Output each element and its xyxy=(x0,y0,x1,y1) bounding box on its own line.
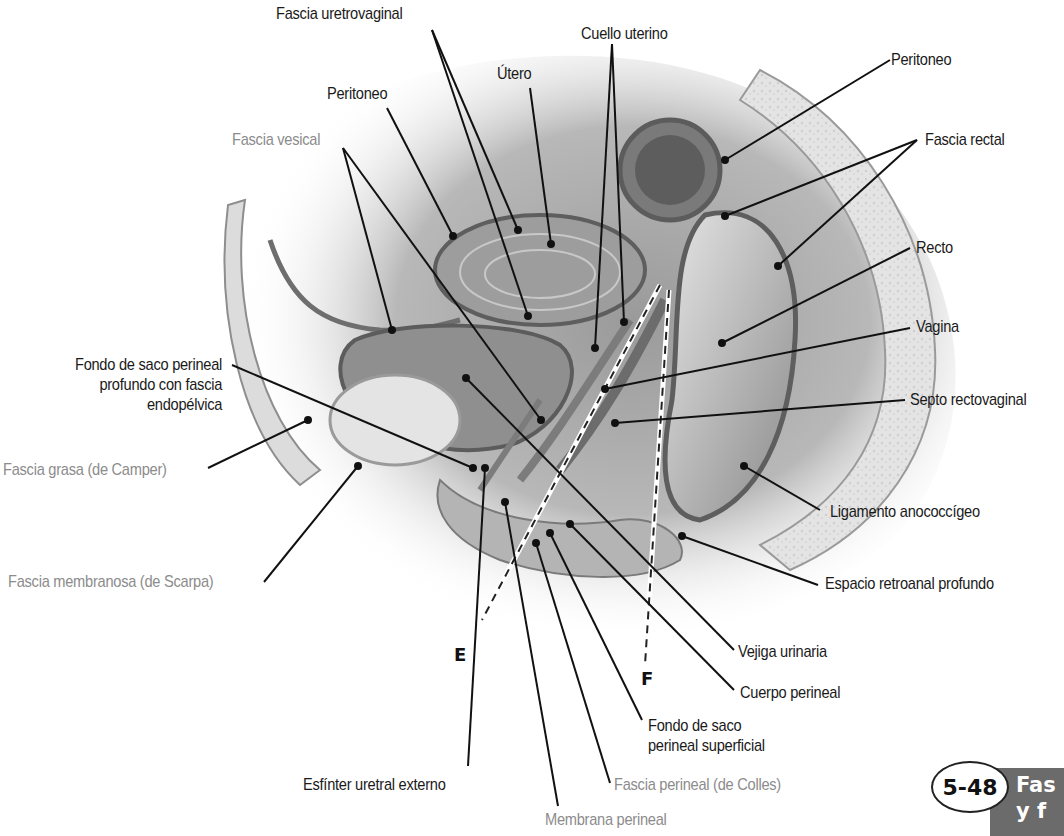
pubic-symphysis xyxy=(330,375,460,465)
label-fondo-saco-superficial: Fondo de saco perineal superficial xyxy=(648,716,765,756)
label-espacio-retroanal: Espacio retroanal profundo xyxy=(825,574,994,594)
label-fascia-vesical: Fascia vesical xyxy=(232,130,320,150)
label-cuello-uterino: Cuello uterino xyxy=(581,24,668,44)
label-ligamento-anococcigeo: Ligamento anococcígeo xyxy=(830,502,980,522)
figure-number-badge: 5-48 xyxy=(931,761,1009,813)
label-vagina: Vagina xyxy=(916,317,959,337)
label-utero: Útero xyxy=(497,64,531,84)
label-recto: Recto xyxy=(916,238,953,258)
label-fondo-saco-profundo: Fondo de saco perineal profundo con fasc… xyxy=(75,355,222,415)
label-vejiga-urinaria: Vejiga urinaria xyxy=(738,642,827,662)
section-plane-e-label: E xyxy=(454,644,466,665)
label-membrana-perineal: Membrana perineal xyxy=(545,810,667,830)
section-plane-f-label: F xyxy=(641,668,653,689)
label-peritoneo-left: Peritoneo xyxy=(327,84,387,104)
label-cuerpo-perineal: Cuerpo perineal xyxy=(740,683,840,703)
label-fascia-membranosa: Fascia membranosa (de Scarpa) xyxy=(8,572,213,592)
label-fascia-rectal: Fascia rectal xyxy=(925,130,1005,150)
label-fascia-uretrovaginal: Fascia uretrovaginal xyxy=(276,4,402,24)
label-fascia-grasa: Fascia grasa (de Camper) xyxy=(3,460,167,480)
label-septo-rectovaginal: Septo rectovaginal xyxy=(910,390,1026,410)
anatomy-figure: Fascia uretrovaginal Cuello uterino Úter… xyxy=(0,0,1064,836)
label-esfinter-uretral: Esfínter uretral externo xyxy=(303,775,446,795)
uterus xyxy=(435,215,645,325)
label-peritoneo-right: Peritoneo xyxy=(891,50,951,70)
pelvis-sagittal-illustration xyxy=(0,0,1064,836)
label-fascia-perineal: Fascia perineal (de Colles) xyxy=(614,775,781,795)
